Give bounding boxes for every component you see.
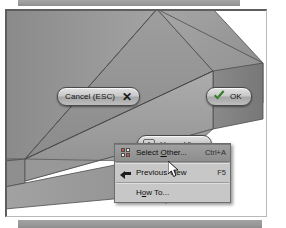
- menu-item-previous-view-label: Previous View: [133, 169, 213, 177]
- context-menu[interactable]: Select Other... Ctrl+A Previous View F5 …: [114, 143, 231, 203]
- menu-item-select-other[interactable]: Select Other... Ctrl+A: [115, 144, 230, 162]
- scan-strip-top: [18, 0, 240, 6]
- scan-strip-bottom: [18, 220, 262, 228]
- select-other-grid-icon: [118, 148, 133, 158]
- menu-item-how-to[interactable]: How To...: [115, 184, 230, 202]
- application-canvas-frame: Cancel (ESC) ✕ OK Home View Select Other…: [5, 9, 267, 217]
- cancel-button-label: Cancel (ESC): [65, 93, 115, 101]
- menu-item-previous-view-shortcut: F5: [213, 169, 226, 177]
- ok-button[interactable]: OK: [206, 87, 252, 106]
- previous-view-back-arrow-icon: [118, 169, 133, 178]
- menu-item-select-other-label: Select Other...: [133, 149, 201, 157]
- menu-item-previous-view[interactable]: Previous View F5: [115, 164, 230, 182]
- cancel-button[interactable]: Cancel (ESC) ✕: [57, 87, 140, 106]
- menu-item-how-to-label: How To...: [133, 189, 222, 197]
- close-x-icon: ✕: [122, 91, 132, 103]
- checkmark-icon: [214, 92, 225, 101]
- menu-item-select-other-shortcut: Ctrl+A: [201, 149, 226, 157]
- ok-button-label: OK: [230, 93, 242, 101]
